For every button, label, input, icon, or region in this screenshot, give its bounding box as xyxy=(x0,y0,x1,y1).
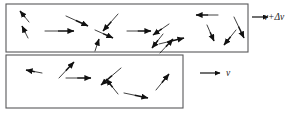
upper-control-volume xyxy=(6,4,248,52)
lower-control-volume xyxy=(6,55,183,108)
physics-diagram-figure: v+Δvv xyxy=(0,0,298,115)
flow-velocity-label-lower: v xyxy=(226,68,231,78)
flow-velocity-label-upper: v+Δv xyxy=(264,12,285,22)
flow-label-lower: v xyxy=(200,68,231,78)
control-volume-boxes xyxy=(6,4,248,108)
diagram-canvas: v+Δvv xyxy=(0,0,298,115)
flow-label-upper: v+Δv xyxy=(252,12,285,22)
